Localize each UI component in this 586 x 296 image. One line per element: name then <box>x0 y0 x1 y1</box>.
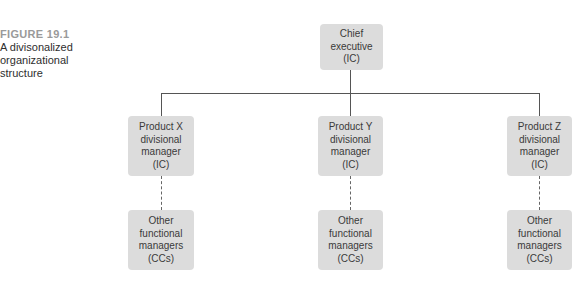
product-x-manager-box: Product X divisional manager (IC) <box>128 116 194 176</box>
figure-title-line: A divisonalized <box>0 41 100 54</box>
division-y-connector <box>350 93 351 116</box>
box-line: Product X <box>139 121 183 134</box>
figure-caption: FIGURE 19.1 A divisonalized organization… <box>0 27 100 80</box>
division-z-dashed-link <box>539 176 540 210</box>
division-y-dashed-link <box>350 176 351 210</box>
box-line: (CCs) <box>517 253 561 266</box>
chief-executive-box: Chief executive (IC) <box>320 24 383 70</box>
product-y-manager-box: Product Y divisional manager (IC) <box>318 116 383 176</box>
figure-title-line: organizational <box>0 54 100 67</box>
box-line: (IC) <box>329 159 373 172</box>
box-line: manager <box>518 146 561 159</box>
division-x-dashed-link <box>161 176 162 210</box>
box-line: managers <box>517 240 561 253</box>
box-line: divisional <box>518 134 561 147</box>
box-line: managers <box>139 240 183 253</box>
box-line: Other <box>139 215 183 228</box>
box-line: managers <box>328 240 372 253</box>
figure-label: FIGURE 19.1 <box>0 27 100 41</box>
chief-connector <box>350 70 351 94</box>
box-line: functional <box>139 228 183 241</box>
product-z-manager-box: Product Z divisional manager (IC) <box>507 116 572 176</box>
box-line: Chief <box>330 28 372 41</box>
box-line: executive <box>330 41 372 54</box>
product-x-functional-box: Other functional managers (CCs) <box>128 210 194 270</box>
box-line: Other <box>328 215 372 228</box>
box-line: functional <box>517 228 561 241</box>
box-line: Product Z <box>518 121 561 134</box>
box-line: (IC) <box>330 53 372 66</box>
division-z-connector <box>539 93 540 116</box>
product-y-functional-box: Other functional managers (CCs) <box>318 210 383 270</box>
division-x-connector <box>161 93 162 116</box>
product-z-functional-box: Other functional managers (CCs) <box>507 210 572 270</box>
box-line: functional <box>328 228 372 241</box>
box-line: (CCs) <box>328 253 372 266</box>
box-line: divisional <box>139 134 183 147</box>
box-line: manager <box>139 146 183 159</box>
box-line: Product Y <box>329 121 373 134</box>
box-line: (IC) <box>518 159 561 172</box>
box-line: (CCs) <box>139 253 183 266</box>
box-line: Other <box>517 215 561 228</box>
box-line: (IC) <box>139 159 183 172</box>
box-line: divisional <box>329 134 373 147</box>
box-line: manager <box>329 146 373 159</box>
figure-title-line: structure <box>0 67 100 80</box>
